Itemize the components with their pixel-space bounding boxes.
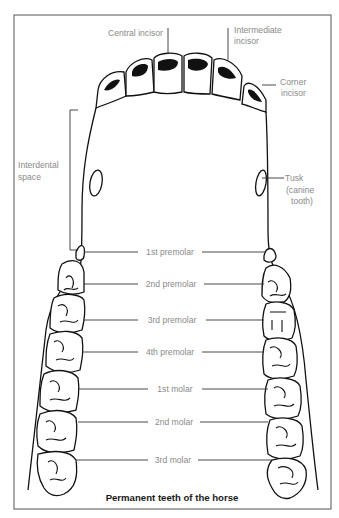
label-premolar-1: 1st premolar [146, 247, 194, 257]
molar-2-right [267, 418, 304, 459]
tusk-right [254, 169, 268, 196]
molar-1-right [265, 378, 302, 419]
label-interdental-space: Interdental [18, 160, 59, 170]
cheek-teeth-right [262, 249, 306, 499]
label-tusk: Tusk [285, 173, 304, 183]
label-molar-1: 1st molar [157, 384, 192, 394]
intermediate-incisor-right [212, 59, 242, 100]
label-premolar-4: 4th premolar [146, 347, 194, 357]
label-premolar-3: 3rd premolar [148, 315, 197, 325]
label-tusk-2: (canine [286, 185, 314, 195]
horse-teeth-diagram: Central incisor Intermediate incisor Cor… [0, 0, 339, 518]
label-corner-incisor: Corner [280, 77, 306, 87]
label-intermediate-incisor: Intermediate [234, 25, 282, 35]
molar-3-right [268, 458, 307, 498]
tusk-left [88, 169, 104, 197]
molar-3-left [37, 452, 76, 496]
molar-2-left [37, 411, 77, 453]
premolar-1-left [76, 246, 84, 261]
premolar-4-right [263, 338, 298, 379]
label-tusk-3: tooth) [291, 196, 313, 206]
label-corner-incisor-2: incisor [281, 88, 306, 98]
cheek-teeth-left [37, 246, 85, 496]
label-molar-3: 3rd molar [155, 455, 191, 465]
label-interdental-space-2: space [18, 172, 41, 182]
label-intermediate-incisor-2: incisor [234, 36, 259, 46]
molar-1-left [40, 371, 79, 413]
label-premolar-2: 2nd premolar [146, 279, 197, 289]
corner-incisor-left [96, 72, 126, 108]
incisor-row [96, 53, 266, 112]
premolar-4-left [46, 331, 83, 372]
premolar-1-right [264, 249, 276, 263]
figure-caption: Permanent teeth of the horse [106, 492, 239, 503]
premolar-3-right [263, 302, 296, 341]
label-central-incisor: Central incisor [108, 28, 163, 38]
intermediate-incisor-left [126, 59, 154, 96]
label-molar-2: 2nd molar [155, 417, 193, 427]
